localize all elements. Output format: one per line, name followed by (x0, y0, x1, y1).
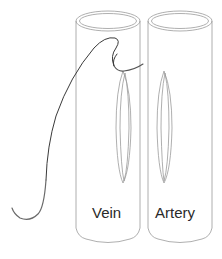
vein-top-rim-outer (76, 11, 140, 31)
artery-incision-outer (157, 71, 172, 183)
artery-incision-inner (161, 73, 169, 181)
vein-top-rim-inner (80, 14, 137, 29)
suture-stitch-loop (114, 64, 143, 71)
vein-label: Vein (92, 204, 121, 221)
artery-label: Artery (155, 204, 195, 221)
artery-bottom-edge (148, 228, 212, 243)
needle-hook (12, 180, 46, 219)
suture-needle (12, 38, 143, 220)
suture-thread (46, 38, 118, 180)
artery-top-rim-inner (152, 14, 209, 29)
artery-top-rim-outer (148, 11, 212, 31)
vein-bottom-edge (76, 228, 140, 243)
vein-incision-inner (120, 73, 129, 181)
